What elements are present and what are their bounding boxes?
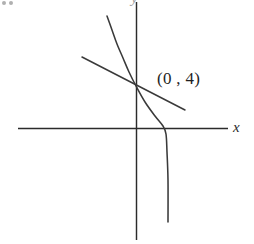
x-axis-label: x — [233, 120, 240, 135]
math-figure: x y (0 , 4) — [0, 0, 254, 244]
y-axis-label: y — [131, 0, 138, 6]
exponential-curve — [107, 16, 168, 222]
figure-canvas — [0, 0, 254, 244]
point-coordinate-label: (0 , 4) — [157, 70, 200, 87]
